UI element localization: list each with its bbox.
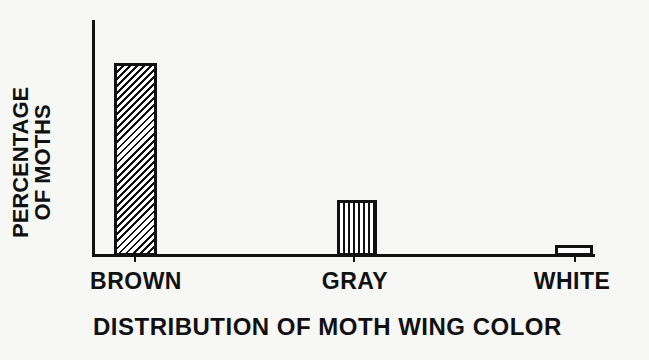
tick-white (574, 256, 576, 262)
y-axis (92, 20, 95, 257)
y-axis-label-line-1: PERCENTAGE (10, 87, 32, 238)
y-axis-label: PERCENTAGE OF MOTHS (10, 87, 54, 238)
bar-gray (337, 200, 377, 256)
x-axis-label: DISTRIBUTION OF MOTH WING COLOR (93, 313, 562, 341)
category-label-brown: BROWN (90, 268, 182, 295)
category-label-white: WHITE (534, 268, 611, 295)
bar-white (555, 245, 593, 256)
category-label-gray: GRAY (322, 268, 388, 295)
tick-gray (353, 256, 355, 262)
y-axis-label-line-2: OF MOTHS (32, 87, 54, 238)
bar-brown (114, 63, 157, 256)
tick-brown (134, 256, 136, 262)
